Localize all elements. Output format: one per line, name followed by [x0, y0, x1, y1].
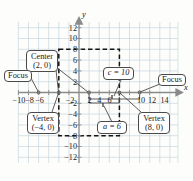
ytick-4: 4	[73, 67, 77, 76]
xtick-12: 12	[148, 96, 156, 105]
xtick-4: 4	[97, 96, 101, 105]
callout-vertex-left-line2: (−4, 0)	[28, 124, 58, 133]
ytick-6: 6	[73, 56, 77, 65]
xtick--10: −10	[13, 96, 26, 105]
ytick--6: −6	[68, 121, 77, 130]
callout-c-value-label: c = 10	[104, 69, 133, 78]
ytick-12: 12	[69, 24, 77, 33]
callout-focus-left-label: Focus	[5, 72, 31, 81]
leader-focusleft	[31, 78, 38, 92]
y-axis-label: y	[81, 9, 86, 19]
callout-focus-right[interactable]: Focus	[158, 74, 186, 86]
ytick--4: −4	[68, 110, 77, 119]
xtick--6: −6	[35, 96, 44, 105]
callout-center-line2: (2, 0)	[27, 62, 57, 71]
ytick--12: −12	[64, 153, 77, 162]
ytick-8: 8	[73, 45, 77, 54]
xtick--8: −8	[25, 96, 34, 105]
callout-a-value[interactable]: a = 6	[97, 121, 127, 134]
graph-canvas: −10 −8 −6 −2 2 4 6 10 12 14 12 10 8 6 4 …	[0, 0, 193, 181]
callout-vertex-right[interactable]: Vertex (8, 0)	[138, 112, 170, 134]
xtick-6: 6	[107, 96, 111, 105]
callout-focus-right-label: Focus	[159, 76, 185, 85]
ytick-2: 2	[73, 78, 77, 87]
x-axis-arrow	[176, 89, 183, 96]
callout-c-value[interactable]: c = 10	[103, 67, 134, 80]
ellipse-coordinate-figure: −10 −8 −6 −2 2 4 6 10 12 14 12 10 8 6 4 …	[0, 0, 193, 181]
leader-center-to-vertexleft	[56, 70, 59, 92]
brace-a	[89, 97, 119, 107]
xtick-10: 10	[137, 96, 145, 105]
callout-vertex-left[interactable]: Vertex (−4, 0)	[27, 112, 59, 134]
ytick--10: −10	[64, 142, 77, 151]
xtick-2: 2	[87, 96, 91, 105]
xtick-14: 14	[160, 96, 168, 105]
ytick--2: −2	[68, 99, 77, 108]
ytick-10: 10	[69, 34, 77, 43]
callout-a-value-label: a = 6	[98, 123, 126, 132]
callout-focus-left[interactable]: Focus	[4, 70, 32, 82]
callout-center[interactable]: Center (2, 0)	[26, 50, 58, 72]
leader-vertexleft	[52, 93, 59, 112]
callout-vertex-right-line2: (8, 0)	[139, 124, 169, 133]
axes	[18, 18, 182, 164]
ytick--8: −8	[68, 132, 77, 141]
